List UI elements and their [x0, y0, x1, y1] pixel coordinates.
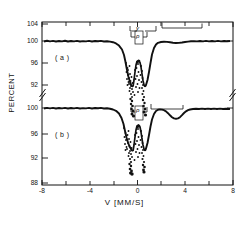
annotation-label-gamma-a: γ	[136, 25, 139, 31]
annotation-label-rho-a: ρ	[136, 33, 139, 39]
bracket-annotation-b-outer	[151, 104, 183, 109]
bracket-annotation-a-outer	[162, 23, 202, 29]
bracket-annotation-a-gamma	[130, 26, 156, 31]
panel-label-b: ( b )	[55, 131, 69, 138]
xtick-label-0: 0	[130, 187, 146, 194]
spectrum-points-b	[123, 125, 146, 176]
xtick-label-neg4: -4	[82, 187, 98, 194]
ytick-label-100-a: 100	[20, 37, 38, 44]
x-axis-title: V [MM/S]	[0, 198, 249, 207]
plot-frame	[42, 22, 233, 185]
ytick-label-88-b: 88	[20, 179, 38, 186]
annotation-label-rho-b: ρ	[136, 107, 139, 113]
ytick-label-92-a: 92	[20, 81, 38, 88]
y-axis-title: PERCENT	[7, 63, 16, 123]
left-axis-ticks	[42, 24, 48, 183]
ytick-label-96-a: 96	[20, 59, 38, 66]
xtick-label-4: 4	[177, 187, 193, 194]
ytick-label-104: 104	[20, 20, 38, 27]
ytick-label-100-b: 100	[20, 104, 38, 111]
bottom-axis-ticks	[42, 180, 233, 185]
ytick-label-96-b: 96	[20, 130, 38, 137]
xtick-label-neg8: -8	[34, 187, 50, 194]
ytick-label-92-b: 92	[20, 154, 38, 161]
xtick-label-8: 8	[225, 187, 241, 194]
panel-label-a: ( a )	[55, 54, 69, 61]
spectrum-curve-b	[44, 108, 230, 176]
